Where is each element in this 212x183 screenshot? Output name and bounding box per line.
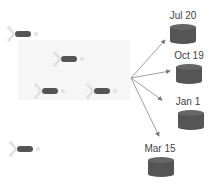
- arrow-jan1: [131, 78, 162, 100]
- database-label: Jul 20: [158, 10, 208, 21]
- database-label: Jan 1: [163, 96, 212, 107]
- database-label: Oct 19: [164, 50, 212, 61]
- molecule-icon: [8, 140, 42, 158]
- arrow-mar15: [131, 78, 159, 136]
- molecule-icon: [6, 25, 40, 43]
- arrow-jul20: [131, 40, 165, 78]
- molecule-icon: [52, 50, 86, 68]
- database-icon: [176, 64, 202, 84]
- database-icon: [170, 24, 196, 44]
- database-icon: [148, 157, 174, 177]
- database-label: Mar 15: [135, 143, 185, 154]
- database-icon: [178, 110, 204, 130]
- molecule-icon: [33, 82, 67, 100]
- molecule-icon: [85, 82, 119, 100]
